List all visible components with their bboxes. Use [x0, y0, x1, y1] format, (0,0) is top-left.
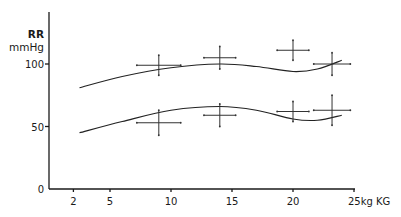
error-bar-cap	[203, 57, 205, 59]
x-tick-label: 15	[226, 196, 239, 207]
error-bar-cap	[313, 109, 315, 111]
systolic-data-point	[276, 39, 310, 61]
error-bar-cap	[276, 49, 278, 51]
y-axis-label-line-1: RR	[28, 28, 44, 40]
y-tick-label: 100	[25, 59, 44, 70]
y-tick-label: 0	[38, 184, 44, 195]
error-bar-cap	[308, 111, 310, 113]
x-tick-label: 20	[287, 196, 300, 207]
systolic-data-point	[313, 52, 351, 76]
error-bar-cap	[219, 46, 221, 48]
error-bar-cap	[203, 114, 205, 116]
axes	[49, 12, 355, 189]
x-tick-label: 2	[70, 196, 76, 207]
error-bar-cap	[158, 109, 160, 111]
error-bar-cap	[292, 121, 294, 123]
error-bar-cap	[292, 59, 294, 61]
y-tick-label: 50	[31, 122, 44, 133]
error-bar-cap	[136, 122, 138, 124]
systolic-data-point	[203, 46, 237, 70]
error-bar-cap	[235, 57, 237, 59]
error-bar-cap	[158, 74, 160, 76]
error-bar-cap	[308, 49, 310, 51]
error-bar-cap	[180, 64, 182, 66]
error-bar-cap	[331, 124, 333, 126]
error-bar-cap	[235, 114, 237, 116]
diastolic-data-point	[136, 109, 182, 136]
y-axis-label-line-2: mmHg	[9, 41, 44, 53]
diastolic-fit-curve	[80, 107, 342, 133]
error-bar-cap	[158, 54, 160, 56]
diastolic-data-point	[313, 94, 351, 126]
error-bar-cap	[158, 134, 160, 136]
error-bar-cap	[331, 52, 333, 54]
x-tick-label: 5	[107, 196, 113, 207]
error-bar-cap	[349, 109, 351, 111]
data-points	[136, 39, 351, 136]
error-bar-cap	[219, 68, 221, 70]
error-bar-cap	[276, 111, 278, 113]
systolic-fit-curve	[80, 60, 342, 88]
error-bar-cap	[219, 103, 221, 105]
error-bar-cap	[292, 101, 294, 103]
fit-curves	[80, 60, 342, 133]
diastolic-data-point	[276, 101, 310, 123]
error-bar-cap	[349, 63, 351, 65]
error-bar-cap	[331, 74, 333, 76]
error-bar-cap	[292, 39, 294, 41]
y-ticks: 050100	[25, 59, 49, 195]
blood-pressure-chart: RR mmHg 050100 2510152025kg KG	[0, 0, 401, 217]
error-bar-cap	[331, 94, 333, 96]
x-ticks: 2510152025kg KG	[70, 189, 390, 207]
error-bar-cap	[180, 122, 182, 124]
y-axis-label: RR mmHg	[9, 28, 44, 53]
x-tick-label: 25kg KG	[348, 196, 390, 207]
error-bar-cap	[136, 64, 138, 66]
x-tick-label: 10	[165, 196, 178, 207]
error-bar-cap	[219, 126, 221, 128]
error-bar-cap	[313, 63, 315, 65]
